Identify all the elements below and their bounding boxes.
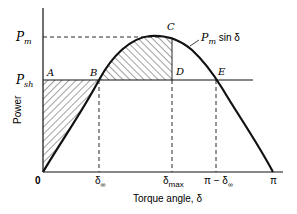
tick-delta-inf: δ∞ [95, 175, 106, 188]
point-a: A [46, 67, 54, 78]
point-e: E [217, 66, 226, 77]
tick-delta-max: δmax [163, 175, 184, 189]
origin-label: 0 [35, 175, 41, 186]
point-b: B [89, 67, 97, 78]
pm-label: Pm [15, 30, 32, 46]
power-angle-diagram: Pm Psh Power A B C D E Pm sin δ 0 δ∞ δma… [0, 0, 297, 214]
psh-label: Psh [15, 73, 33, 89]
point-d: D [175, 66, 184, 77]
y-axis-title: Power [12, 95, 23, 124]
curve-label: Pm sin δ [200, 31, 240, 46]
tick-pi: π [270, 175, 277, 186]
point-c: C [167, 21, 175, 32]
x-axis-title: Torque angle, δ [133, 193, 202, 204]
decelerating-area [99, 36, 172, 80]
curve-label-leader [190, 40, 199, 46]
tick-pi-minus-delta-inf: π − δ∞ [204, 175, 233, 188]
